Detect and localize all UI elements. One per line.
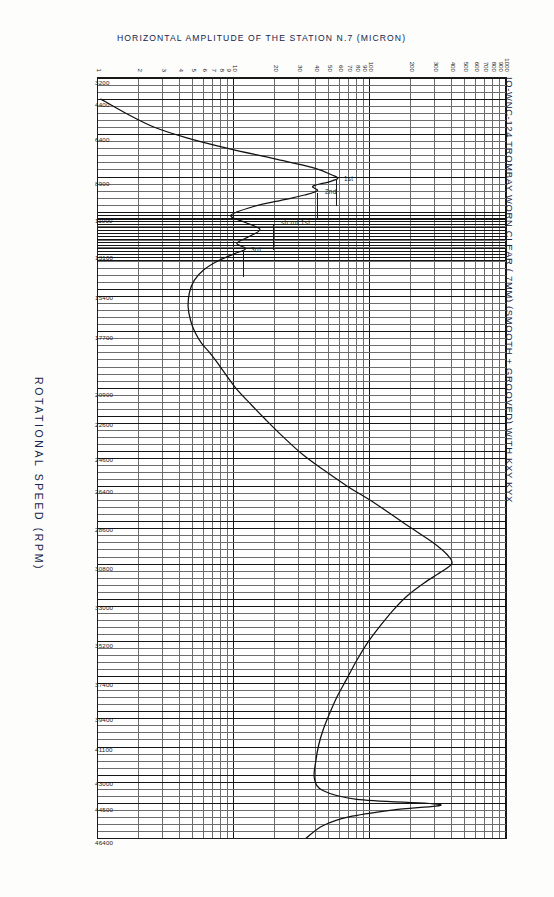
annotation-leader-line <box>243 250 244 276</box>
rotated-figure-wrapper: IO-WNC-124 TROMBAY WORN CLEAR (.7MM) (SM… <box>17 19 537 879</box>
y-axis-tick: 400 <box>450 19 457 72</box>
x-axis-tick: 22600 <box>95 420 113 427</box>
x-axis-tick: 15400 <box>95 294 113 301</box>
y-axis-tick: 3 <box>161 19 168 72</box>
curve-annotation: 3rd <box>251 245 261 252</box>
y-axis-tick: 7 <box>211 19 218 72</box>
x-axis-tick: 30800 <box>95 564 113 571</box>
y-axis-tick: 80 <box>355 19 362 72</box>
x-axis-tick: 35200 <box>95 642 113 649</box>
y-axis-tick: 5 <box>191 19 198 72</box>
x-axis-tick: 24600 <box>95 455 113 462</box>
curve-path <box>101 99 452 838</box>
y-axis-tick: 60 <box>338 19 345 72</box>
y-axis-tick: 200 <box>409 19 416 72</box>
x-axis-tick: 8900 <box>95 179 110 186</box>
y-axis-tick: 300 <box>433 19 440 72</box>
x-axis-tick: 26400 <box>95 487 113 494</box>
annotation-leader-line <box>317 192 318 218</box>
y-axis-tick: 40 <box>314 19 321 72</box>
y-axis-tick: 50 <box>327 19 334 72</box>
x-axis-tick: 28600 <box>95 526 113 533</box>
x-axis-tick: 39400 <box>95 716 113 723</box>
y-axis-tick: 100 <box>368 19 375 72</box>
x-axis-tick: 44500 <box>95 805 113 812</box>
y-axis-tick: 1 <box>96 19 103 72</box>
x-axis-tick: 46400 <box>95 839 113 846</box>
x-axis-tick: 43000 <box>95 779 113 786</box>
x-axis-tick: 11000 <box>95 216 113 223</box>
chart-figure: IO-WNC-124 TROMBAY WORN CLEAR (.7MM) (SM… <box>17 19 537 879</box>
x-axis-tick: 6400 <box>95 135 110 142</box>
annotation-leader-line <box>273 224 274 250</box>
y-axis-tick: 8 <box>219 19 226 72</box>
y-axis-tick: 10 <box>232 19 239 72</box>
y-axis-tick: 20 <box>273 19 280 72</box>
x-axis-tick: 13100 <box>95 253 113 260</box>
y-axis-tick: 4 <box>178 19 185 72</box>
y-axis-tick: 1000 <box>504 19 511 72</box>
y-axis-tick: 70 <box>347 19 354 72</box>
curve-annotation: 2nd <box>325 187 337 194</box>
x-axis-tick: 4400 <box>95 100 110 107</box>
y-axis-tick: 500 <box>463 19 470 72</box>
x-axis-title: ROTATIONAL SPEED (RPM) <box>33 377 45 571</box>
curve-annotation: sh.rot.1st <box>281 219 310 226</box>
curve-annotation: 1st <box>344 175 353 182</box>
y-axis-tick: 600 <box>474 19 481 72</box>
y-axis-tick: 2 <box>137 19 144 72</box>
screenshot-page: IO-WNC-124 TROMBAY WORN CLEAR (.7MM) (SM… <box>0 0 554 897</box>
x-axis-tick: 20900 <box>95 390 113 397</box>
y-axis-title: HORIZONTAL AMPLITUDE OF THE STATION N.7 … <box>117 33 406 43</box>
x-axis-tick: 33000 <box>95 603 113 610</box>
plot-area: 1st2nd3rdsh.rot.1st <box>97 77 507 839</box>
response-curve <box>98 78 506 838</box>
y-axis-tick: 800 <box>491 19 498 72</box>
x-axis-tick: 3200 <box>95 79 110 86</box>
y-axis-tick: 30 <box>297 19 304 72</box>
x-axis-tick: 41100 <box>95 746 113 753</box>
x-axis-tick: 17700 <box>95 334 113 341</box>
y-axis-tick: 700 <box>483 19 490 72</box>
y-axis-tick: 6 <box>202 19 209 72</box>
x-axis-tick: 37400 <box>95 681 113 688</box>
